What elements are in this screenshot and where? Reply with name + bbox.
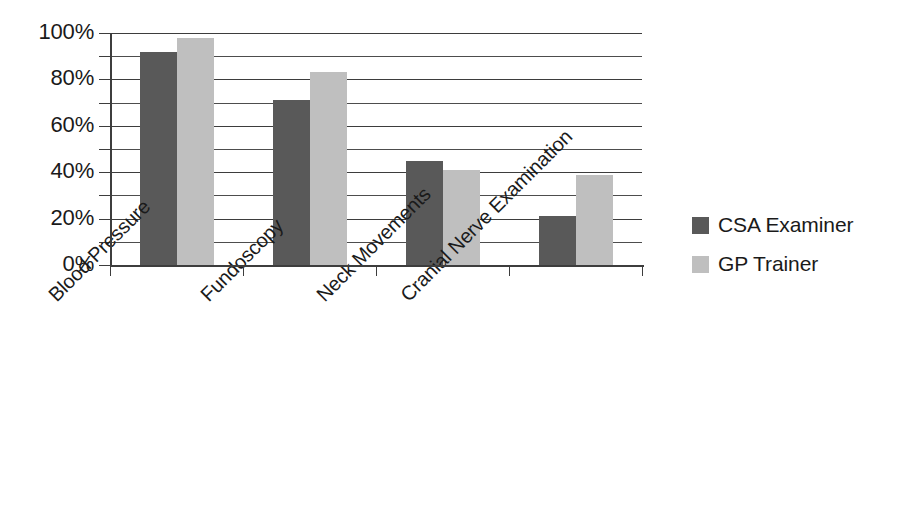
x-axis-line <box>110 265 644 267</box>
y-axis-tick <box>99 219 110 220</box>
y-axis-tick <box>99 126 110 127</box>
legend-item[interactable]: GP Trainer <box>692 252 818 276</box>
y-axis-tick <box>99 103 110 104</box>
y-axis-tick <box>99 33 110 34</box>
bar <box>539 216 576 265</box>
bar <box>576 175 613 265</box>
y-axis-tick <box>99 79 110 80</box>
bar <box>177 38 214 265</box>
y-axis-tick-label: 40% <box>51 158 94 184</box>
y-axis-tick <box>99 56 110 57</box>
y-axis-tick-label: 20% <box>51 205 94 231</box>
legend-swatch-icon <box>692 217 709 234</box>
bar-chart: 0%20%40%60%80%100% Blood PressureFundosc… <box>0 0 901 518</box>
bar <box>273 100 310 265</box>
y-axis-tick-label: 60% <box>51 112 94 138</box>
y-axis-tick-label: 80% <box>51 65 94 91</box>
bar <box>310 72 347 265</box>
legend-item[interactable]: CSA Examiner <box>692 213 853 237</box>
legend-swatch-icon <box>692 256 709 273</box>
y-axis-tick-label: 100% <box>39 19 94 45</box>
y-axis-tick <box>99 195 110 196</box>
legend-label: GP Trainer <box>718 252 818 276</box>
gridline <box>110 33 642 34</box>
y-axis-tick <box>99 172 110 173</box>
y-axis-line <box>110 33 112 266</box>
legend-label: CSA Examiner <box>718 213 853 237</box>
y-axis-tick <box>99 149 110 150</box>
bar <box>140 52 177 265</box>
